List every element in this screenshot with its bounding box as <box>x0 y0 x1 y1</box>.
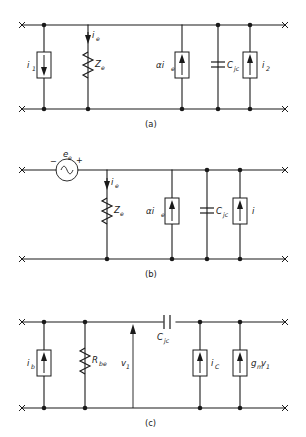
label-i1-a: i <box>27 60 30 70</box>
node-dot <box>105 257 110 262</box>
label-cjc-b: C <box>216 206 222 216</box>
node-dot <box>170 257 175 262</box>
node-dot <box>248 23 253 28</box>
label-alpha-ie-sub-a: e <box>171 65 175 72</box>
label-cjc-sub-c: jc <box>163 337 170 345</box>
dependent-source-alpha-ie-a <box>175 52 189 78</box>
label-cjc-a: C <box>227 60 233 70</box>
caption-c: (c) <box>145 418 156 428</box>
panel-b: − e e + i e Z e <box>19 149 288 279</box>
node-dot <box>42 23 47 28</box>
node-dot <box>86 107 91 112</box>
label-ie-a: i <box>92 30 95 40</box>
label-cjc-sub-a: jc <box>233 65 240 73</box>
label-ze-sub-a: e <box>101 64 105 71</box>
label-ib-c: i <box>27 358 30 368</box>
current-source-ib-c <box>37 350 51 376</box>
current-source-i1-a <box>37 52 51 78</box>
label-rbe-sub-c: be <box>99 360 107 367</box>
polarity-plus-b: + <box>76 156 83 165</box>
label-ic-c: i <box>211 358 214 368</box>
node-dot <box>238 320 243 325</box>
dependent-source-gmv1-c <box>233 350 247 376</box>
panel-a: i 1 i e Z e αi e C jc <box>19 22 288 129</box>
label-alpha-ie-a: αi <box>156 60 165 70</box>
node-dot <box>238 406 243 411</box>
label-cjc-sub-b: jc <box>222 211 229 219</box>
label-ib-sub-c: b <box>31 363 35 370</box>
circuit-figure: i 1 i e Z e αi e C jc <box>0 0 306 437</box>
label-cjc-c: C <box>157 332 163 342</box>
node-dot <box>83 320 88 325</box>
label-i-b: i <box>252 206 255 216</box>
label-i1-sub-a: 1 <box>32 65 36 72</box>
polarity-minus-b: − <box>50 157 57 166</box>
label-alpha-ie-b: αi <box>146 206 155 216</box>
current-arrow-ie-b <box>104 178 110 190</box>
node-dot <box>238 168 243 173</box>
label-v1-sub-c: 1 <box>126 363 130 370</box>
caption-a: (a) <box>145 119 157 129</box>
label-v1b-sub-c: 1 <box>266 363 270 370</box>
node-dot <box>42 406 47 411</box>
node-dot <box>248 107 253 112</box>
node-dot <box>42 107 47 112</box>
label-ie-b: i <box>111 177 114 187</box>
label-alpha-ie-sub-b: e <box>161 211 165 218</box>
dependent-source-alpha-ie-b <box>165 198 179 224</box>
label-i2-a: i <box>262 60 265 70</box>
label-ie-sub-b: e <box>115 182 119 189</box>
label-ie-sub-a: e <box>96 35 100 42</box>
current-source-i-b <box>233 198 247 224</box>
node-dot <box>216 107 221 112</box>
node-dot <box>198 406 203 411</box>
label-ee-sub-b: e <box>68 154 72 161</box>
node-dot <box>198 320 203 325</box>
label-rbe-c: R <box>92 355 98 365</box>
capacitor-cjc-series-c <box>164 315 170 329</box>
caption-b: (b) <box>145 269 157 279</box>
node-dot <box>238 257 243 262</box>
node-dot <box>180 107 185 112</box>
panel-c: i b R be v 1 C jc i C <box>19 315 288 428</box>
current-source-i2-a <box>243 52 257 78</box>
current-arrow-ie-a <box>85 32 91 44</box>
label-i2-sub-a: 2 <box>266 65 270 72</box>
ac-voltage-source-ee-b <box>56 159 78 181</box>
node-dot <box>205 257 210 262</box>
circuit-diagram-svg: i 1 i e Z e αi e C jc <box>0 0 306 437</box>
node-dot <box>205 168 210 173</box>
node-dot <box>216 23 221 28</box>
node-dot <box>42 320 47 325</box>
label-ic-sub-c: C <box>215 363 220 370</box>
node-dot <box>83 406 88 411</box>
voltage-arrow-v1-c <box>130 324 136 408</box>
current-source-ic-c <box>193 350 207 376</box>
label-ze-sub-b: e <box>120 210 124 217</box>
